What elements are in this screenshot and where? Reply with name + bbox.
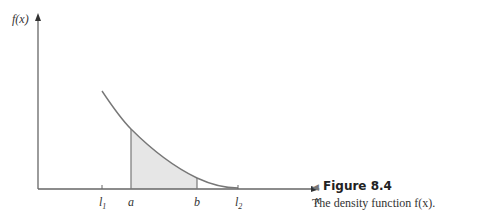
caption-marker-icon: ◀ bbox=[312, 182, 319, 192]
tick-label-b: b bbox=[194, 195, 200, 209]
tick-label-a: a bbox=[128, 195, 134, 209]
y-axis-arrow-icon bbox=[35, 13, 41, 21]
tick-label-l1: l1 bbox=[99, 195, 106, 211]
figure-container: f(x) x l1 a b l2 ◀Figure 8.4 The density… bbox=[0, 0, 482, 217]
figure-caption: ◀Figure 8.4 The density function f(x). bbox=[312, 176, 435, 211]
y-axis-label: f(x) bbox=[12, 12, 29, 26]
tick-label-l2: l2 bbox=[235, 195, 242, 211]
caption-title: Figure 8.4 bbox=[323, 179, 392, 193]
caption-description: The density function f(x). bbox=[312, 196, 435, 211]
